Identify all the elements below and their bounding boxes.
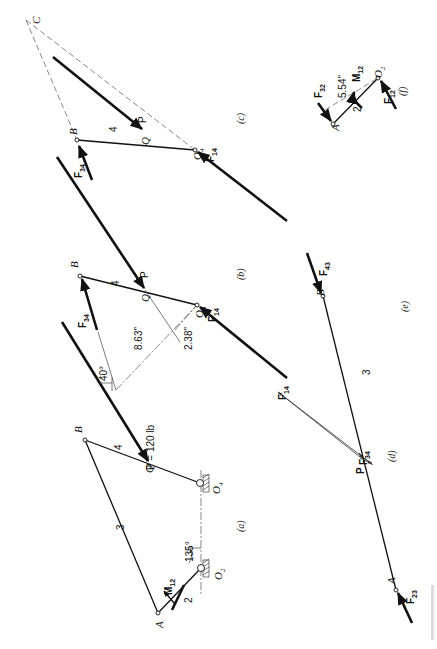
panel-f: F32 5.54" M12 O2 2 F12 A (f) (313, 66, 409, 132)
label-f32: F32 (313, 84, 326, 98)
label-f12: F12 (383, 90, 396, 104)
label-force-p: P = 120 lb (145, 424, 156, 470)
figure-caption-fragment (431, 585, 434, 640)
pin-o2 (198, 565, 205, 572)
label-o4: O4 (210, 482, 225, 494)
label-dim-2.38: 2.38" (183, 327, 194, 350)
label-link-3: 3 (115, 524, 126, 530)
panel-e: B F43 3 A F23 (e) (307, 253, 418, 623)
label-a: A (385, 577, 397, 585)
caption-e: (e) (399, 300, 411, 312)
label-b: B (314, 289, 326, 296)
label-p: P (139, 271, 150, 278)
linkage-force-figure: C B 4 P Q O4 F14 F34 (c) B 4 P Q O4 F14 … (0, 0, 437, 649)
label-link-3: 3 (361, 369, 372, 375)
label-f34: F34 (77, 314, 90, 328)
label-dim-5.54: 5.54" (337, 75, 348, 98)
pin-o4 (195, 303, 199, 307)
label-p: P (137, 116, 148, 123)
pin-o4 (197, 480, 204, 487)
label-o2: O2 (372, 66, 387, 78)
pin-o4 (193, 148, 197, 152)
label-p: P (355, 467, 366, 474)
label-o2: O2 (212, 568, 227, 580)
label-q: Q (143, 465, 155, 473)
pin-b (83, 438, 87, 442)
caption-a: (a) (235, 520, 247, 532)
construction-line-cb (26, 20, 77, 140)
panel-b: B 4 P Q O4 F14 F34 8.63" 2.38" (b) (57, 157, 287, 390)
pin-b (78, 274, 82, 278)
label-angle-40: 40° (98, 366, 109, 381)
force-f23-arrow (398, 593, 412, 623)
vector-p (278, 392, 360, 457)
label-c: C (30, 16, 42, 24)
panel-d: F14 F34 P (d) (277, 386, 398, 474)
pin-a (394, 588, 398, 592)
label-link-2: 2 (352, 106, 363, 112)
caption-c: (c) (235, 112, 247, 124)
force-p-arrow (53, 57, 142, 129)
label-a: A (329, 124, 341, 132)
caption-b: (b) (235, 268, 247, 280)
caption-d: (d) (386, 450, 398, 462)
label-f14: F14 (205, 148, 218, 162)
link-4 (85, 440, 200, 483)
label-b: B (67, 128, 79, 135)
link-4 (77, 140, 195, 150)
panel-a: B 4 P = 120 lb 40° Q O4 3 135° M12 2 O2 … (62, 322, 247, 629)
label-angle-135: 135° (184, 541, 195, 562)
label-link-4: 4 (113, 444, 124, 450)
label-b: B (72, 426, 84, 433)
label-dim-8.63: 8.63" (133, 327, 144, 350)
label-a: A (153, 621, 165, 629)
link-3 (323, 296, 396, 590)
pin-a (156, 611, 160, 615)
panel-c: C B 4 P Q O4 F14 F34 (c) (26, 16, 287, 221)
label-link-4: 4 (108, 126, 119, 132)
pin-b (75, 138, 79, 142)
caption-f: (f) (397, 86, 409, 96)
label-q: Q (139, 294, 151, 302)
label-m12: M12 (351, 66, 364, 82)
label-f34: F34 (73, 164, 86, 178)
label-link-2: 2 (183, 597, 194, 603)
label-b: B (68, 261, 80, 268)
label-link-4: 4 (110, 280, 121, 286)
label-m12: M12 (163, 579, 176, 595)
moment-m12-arrow (354, 92, 362, 108)
label-f23: F23 (405, 590, 418, 604)
force-f32-arrow (318, 103, 331, 121)
label-q: Q (139, 137, 151, 145)
label-f43: F43 (318, 262, 331, 276)
